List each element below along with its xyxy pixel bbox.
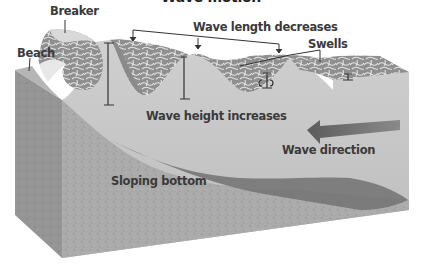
label-wave-height: Wave height increases [146,109,287,123]
label-beach: Beach [17,46,55,60]
label-sloping-bottom: Sloping bottom [111,174,207,188]
left-side-face [15,70,62,258]
label-breaker: Breaker [50,4,99,18]
label-wave-length: Wave length decreases [193,20,337,34]
label-wave-direction: Wave direction [282,143,375,157]
label-swells: Swells [308,37,348,51]
wave-motion-diagram: Wave motion [0,0,422,272]
wave-block-illustration [0,0,422,272]
breaker-spray [40,60,66,83]
